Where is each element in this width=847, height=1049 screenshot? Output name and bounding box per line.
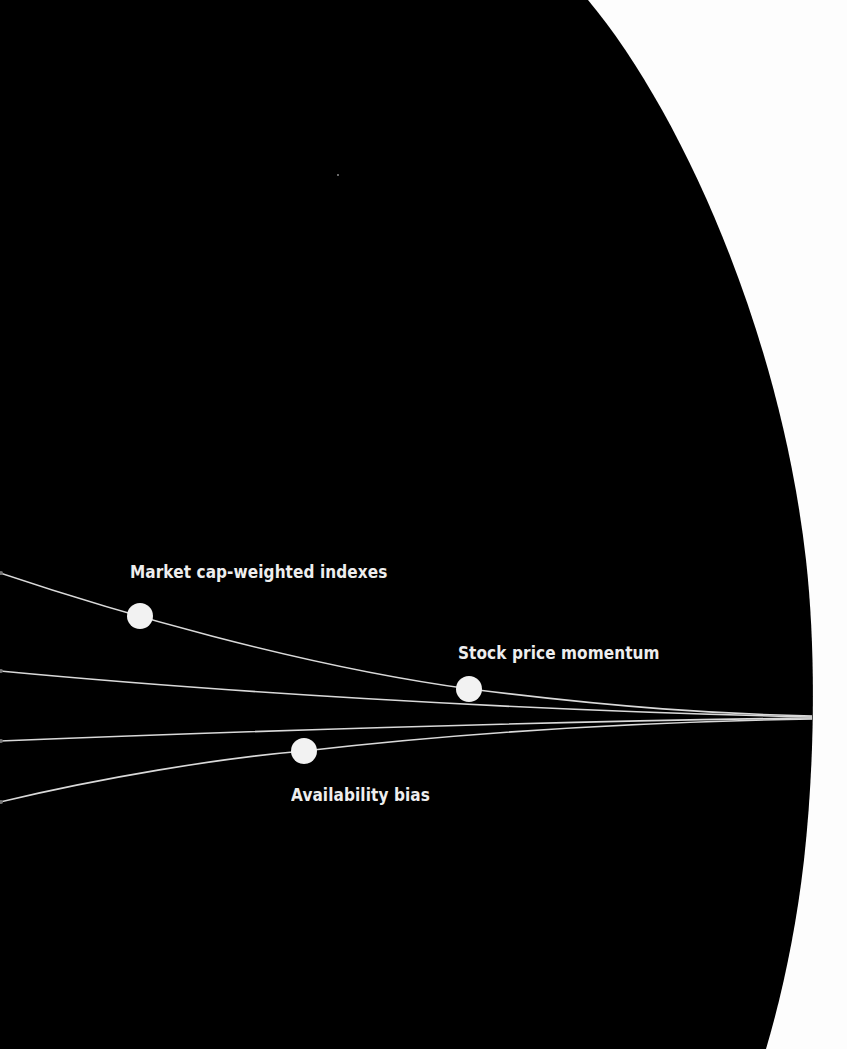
label-availability: Availability bias [291, 785, 430, 805]
node-availability [291, 738, 317, 764]
speck [337, 174, 339, 176]
black-disc [0, 0, 813, 1049]
label-momentum: Stock price momentum [458, 643, 660, 663]
node-momentum [456, 676, 482, 702]
diagram-canvas: Market cap-weighted indexes Stock price … [0, 0, 847, 1049]
diagram-graphic [0, 0, 847, 1049]
node-market-cap [127, 603, 153, 629]
label-market-cap: Market cap-weighted indexes [130, 562, 387, 582]
